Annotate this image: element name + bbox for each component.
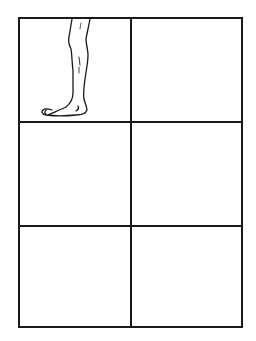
panel-grid [18,17,243,328]
panel-r2-c1 [20,123,130,225]
panel-r3-c1 [20,227,130,326]
panel-r2-c2 [132,123,241,225]
panel-r1-c1 [20,19,130,121]
panel-r3-c2 [132,227,241,326]
panel-r1-c2 [132,19,241,121]
leg-foot-drawing-icon [20,19,130,121]
